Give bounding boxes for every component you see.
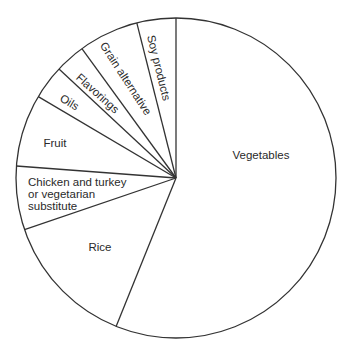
slice-label-chicken-line2: or vegetarian — [28, 188, 95, 200]
slice-label-vegetables: Vegetables — [233, 149, 290, 161]
pie-chart-svg: Vegetables Rice Chicken and turkey or ve… — [0, 0, 355, 359]
slice-label-fruit: Fruit — [44, 137, 68, 149]
slice-label-rice: Rice — [88, 241, 111, 253]
slice-label-chicken-line1: Chicken and turkey — [28, 176, 127, 188]
pie-chart: Vegetables Rice Chicken and turkey or ve… — [0, 0, 355, 359]
slice-label-chicken-line3: substitute — [28, 200, 77, 212]
